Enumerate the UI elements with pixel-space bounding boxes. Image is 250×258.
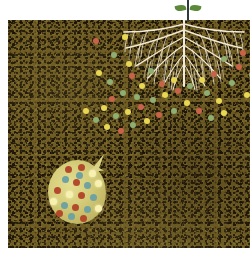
nutrient-particle bbox=[249, 72, 250, 78]
nutrient-particle bbox=[221, 110, 227, 116]
nutrient-particle bbox=[134, 94, 140, 100]
tuber-dot bbox=[54, 187, 61, 194]
nutrient-particle bbox=[240, 50, 246, 56]
tuber-dot bbox=[62, 176, 69, 183]
nutrient-particle bbox=[111, 52, 117, 58]
nutrient-particle bbox=[96, 70, 102, 76]
tuber-dot bbox=[78, 192, 85, 199]
tuber-dot bbox=[89, 170, 96, 177]
nutrient-particle bbox=[221, 56, 227, 62]
tuber-dot bbox=[61, 202, 68, 209]
nutrient-particle bbox=[83, 108, 89, 114]
left-margin bbox=[0, 0, 8, 258]
nutrient-particle bbox=[204, 90, 210, 96]
nutrient-particle bbox=[120, 90, 126, 96]
plant-stem bbox=[187, 0, 189, 22]
nutrient-particle bbox=[104, 124, 110, 130]
nutrient-particle bbox=[144, 118, 150, 124]
nutrient-particle bbox=[122, 34, 128, 40]
nutrient-particle bbox=[171, 108, 177, 114]
nutrient-particle bbox=[159, 81, 165, 87]
tuber-dot bbox=[80, 215, 87, 222]
nutrient-particle bbox=[107, 79, 113, 85]
tuber-dot bbox=[84, 182, 91, 189]
nutrient-particle bbox=[199, 77, 205, 83]
nutrient-particle bbox=[150, 97, 156, 103]
nutrient-particle bbox=[113, 113, 119, 119]
nutrient-particle bbox=[184, 100, 190, 106]
nutrient-particle bbox=[130, 122, 136, 128]
nutrient-particle bbox=[216, 98, 222, 104]
tuber-dot bbox=[90, 194, 97, 201]
tuber-dot bbox=[73, 179, 80, 186]
tuber-dot bbox=[72, 204, 79, 211]
nutrient-particle bbox=[118, 128, 124, 134]
bottom-margin bbox=[0, 248, 250, 258]
soil-texture-layer-3 bbox=[8, 20, 250, 248]
nutrient-particle bbox=[229, 80, 235, 86]
nutrient-particle bbox=[138, 104, 144, 110]
nutrient-particle bbox=[175, 88, 181, 94]
nutrient-particle bbox=[93, 117, 99, 123]
tuber-dot bbox=[84, 206, 91, 213]
tuber-dot bbox=[78, 164, 85, 171]
soil-block bbox=[8, 20, 250, 248]
tuber-dot bbox=[76, 172, 83, 179]
tuber-dot bbox=[95, 180, 102, 187]
tuber-dot bbox=[68, 213, 75, 220]
nutrient-particle bbox=[129, 73, 135, 79]
nutrient-particle bbox=[196, 108, 202, 114]
nutrient-particle bbox=[171, 77, 177, 83]
nutrient-particle bbox=[148, 68, 154, 74]
nutrient-particle bbox=[101, 105, 107, 111]
tuber-dot bbox=[66, 191, 73, 198]
nutrient-particle bbox=[187, 83, 193, 89]
nutrient-particle bbox=[93, 38, 99, 44]
nutrient-particle bbox=[244, 92, 250, 98]
seedling-shoot bbox=[186, 0, 190, 22]
nutrient-particle bbox=[156, 112, 162, 118]
nutrient-particle bbox=[236, 64, 242, 70]
nutrient-particle bbox=[109, 96, 115, 102]
tuber-dot bbox=[56, 210, 63, 217]
soil-illustration bbox=[0, 0, 250, 258]
nutrient-particle bbox=[162, 92, 168, 98]
tuber-dot bbox=[95, 205, 102, 212]
nutrient-particle bbox=[208, 115, 214, 121]
nutrient-particle bbox=[125, 109, 131, 115]
tuber-dot bbox=[50, 198, 57, 205]
potato-tuber bbox=[48, 154, 110, 224]
nutrient-particle bbox=[211, 71, 217, 77]
nutrient-particle bbox=[126, 61, 132, 67]
tuber-dot bbox=[65, 166, 72, 173]
sky-band bbox=[0, 0, 250, 20]
nutrient-particle bbox=[139, 83, 145, 89]
